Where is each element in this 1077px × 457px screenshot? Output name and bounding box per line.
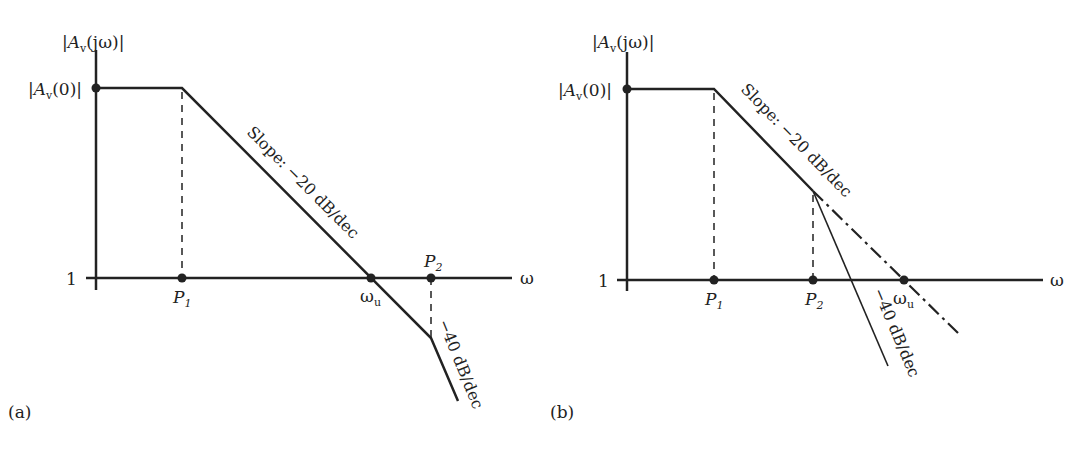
- b-p1-dot: [710, 276, 719, 285]
- a-p2-dot: [427, 274, 436, 283]
- a-wu-dot: [367, 274, 376, 283]
- b-top-dot: [623, 85, 632, 94]
- a-panel-label: (a): [8, 402, 31, 422]
- a-y-one-label: 1: [66, 269, 77, 289]
- a-slope1-label: Slope: −20 dB/dec: [243, 122, 363, 242]
- b-x-axis-label: ω: [1050, 270, 1064, 290]
- b-y-axis-label: |Av(jω)|: [592, 32, 654, 55]
- bode-diagrams: |Av(jω)| |Av(0)| 1 ω P1 ωu P2 Slope: −20…: [0, 0, 1077, 457]
- magnitude-curve: [96, 88, 458, 401]
- b-p2-label: P2: [804, 289, 823, 312]
- a-p2-label: P2: [423, 251, 442, 274]
- a-wu-label: ωu: [360, 286, 381, 309]
- a-x-axis-label: ω: [520, 268, 534, 288]
- b-p2-dot: [809, 276, 818, 285]
- b-y-one-label: 1: [598, 271, 609, 291]
- b-panel-label: (b): [550, 402, 574, 422]
- b-y-top-label: |Av(0)|: [558, 80, 612, 103]
- panel-b: [617, 52, 1043, 366]
- b-p1-label: P1: [704, 289, 723, 312]
- b-wu-dot: [900, 276, 909, 285]
- steep-rolloff-line: [813, 191, 888, 366]
- a-y-top-label: |Av(0)|: [28, 79, 82, 102]
- a-p1-dot: [178, 274, 187, 283]
- b-slope1-label: Slope: −20 dB/dec: [737, 80, 856, 201]
- a-p1-label: P1: [172, 287, 191, 310]
- a-top-dot: [92, 84, 101, 93]
- a-y-axis-label: |Av(jω)|: [62, 32, 124, 55]
